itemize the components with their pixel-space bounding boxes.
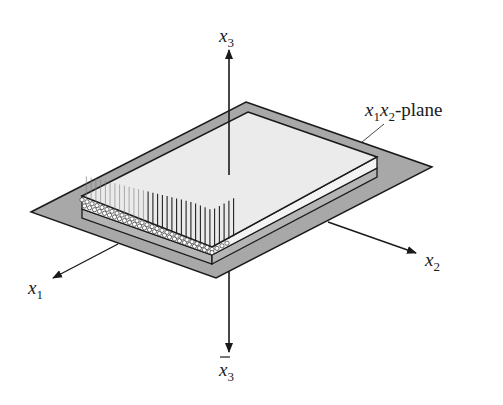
x2-axis [328, 222, 416, 253]
plane-label-leader [362, 124, 384, 142]
x3bar-label: x3 [218, 359, 234, 384]
x1-label: x1 [27, 277, 43, 302]
x2-label: x2 [424, 249, 440, 274]
x3-label: x3 [218, 25, 234, 50]
x1-axis [53, 244, 118, 278]
laminate-coordinate-diagram: x3 x3 x1 x2 x1x2-plane [0, 0, 503, 405]
plane-label: x1x2-plane [364, 99, 442, 124]
